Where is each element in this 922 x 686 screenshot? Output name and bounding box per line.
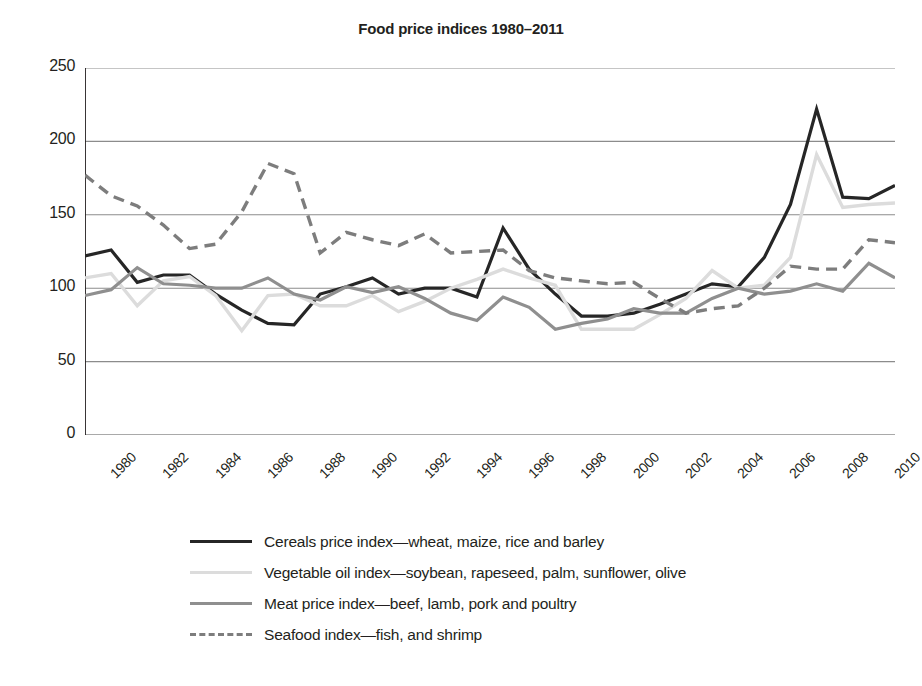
x-tick-label: 1990: [368, 449, 400, 481]
x-tick-label: 1986: [264, 449, 296, 481]
y-tick-label: 200: [29, 130, 75, 148]
legend-swatch-meat: [190, 602, 252, 605]
x-tick-label: 1988: [316, 449, 348, 481]
x-tick-label: 2000: [629, 449, 661, 481]
y-tick-label: 100: [29, 277, 75, 295]
legend-item-seafood[interactable]: Seafood index—fish, and shrimp: [190, 619, 830, 650]
legend: Cereals price index—wheat, maize, rice a…: [190, 526, 830, 650]
x-tick-label: 1992: [420, 449, 452, 481]
plot-area: [85, 68, 895, 435]
legend-swatch-seafood: [190, 633, 252, 636]
chart-page: Food price indices 1980–2011 05010015020…: [0, 0, 922, 686]
legend-label-vegetable-oil: Vegetable oil index—soybean, rapeseed, p…: [264, 564, 686, 582]
x-tick-label: 1996: [525, 449, 557, 481]
x-tick-label: 2004: [734, 449, 766, 481]
x-tick-label: 1994: [473, 449, 505, 481]
y-tick-label: 50: [29, 351, 75, 369]
x-tick-label: 1982: [159, 449, 191, 481]
y-tick-label: 150: [29, 204, 75, 222]
legend-item-vegetable-oil[interactable]: Vegetable oil index—soybean, rapeseed, p…: [190, 557, 830, 588]
x-tick-label: 2008: [838, 449, 870, 481]
series-line-vegetable_oil: [85, 155, 895, 331]
x-tick-label: 1998: [577, 449, 609, 481]
legend-swatch-vegetable-oil: [190, 571, 252, 574]
legend-label-seafood: Seafood index—fish, and shrimp: [264, 626, 482, 644]
legend-label-meat: Meat price index—beef, lamb, pork and po…: [264, 595, 576, 613]
x-tick-label: 2006: [786, 449, 818, 481]
legend-item-cereals[interactable]: Cereals price index—wheat, maize, rice a…: [190, 526, 830, 557]
data-series: [85, 109, 895, 331]
y-tick-label: 0: [29, 424, 75, 442]
page-title: Food price indices 1980–2011: [0, 20, 922, 37]
x-tick-label: 2002: [682, 449, 714, 481]
y-tick-label: 250: [29, 57, 75, 75]
x-tick-label: 1980: [107, 449, 139, 481]
legend-item-meat[interactable]: Meat price index—beef, lamb, pork and po…: [190, 588, 830, 619]
legend-label-cereals: Cereals price index—wheat, maize, rice a…: [264, 533, 604, 551]
x-tick-label: 1984: [211, 449, 243, 481]
x-tick-label: 2010: [891, 449, 922, 481]
legend-swatch-cereals: [190, 540, 252, 543]
